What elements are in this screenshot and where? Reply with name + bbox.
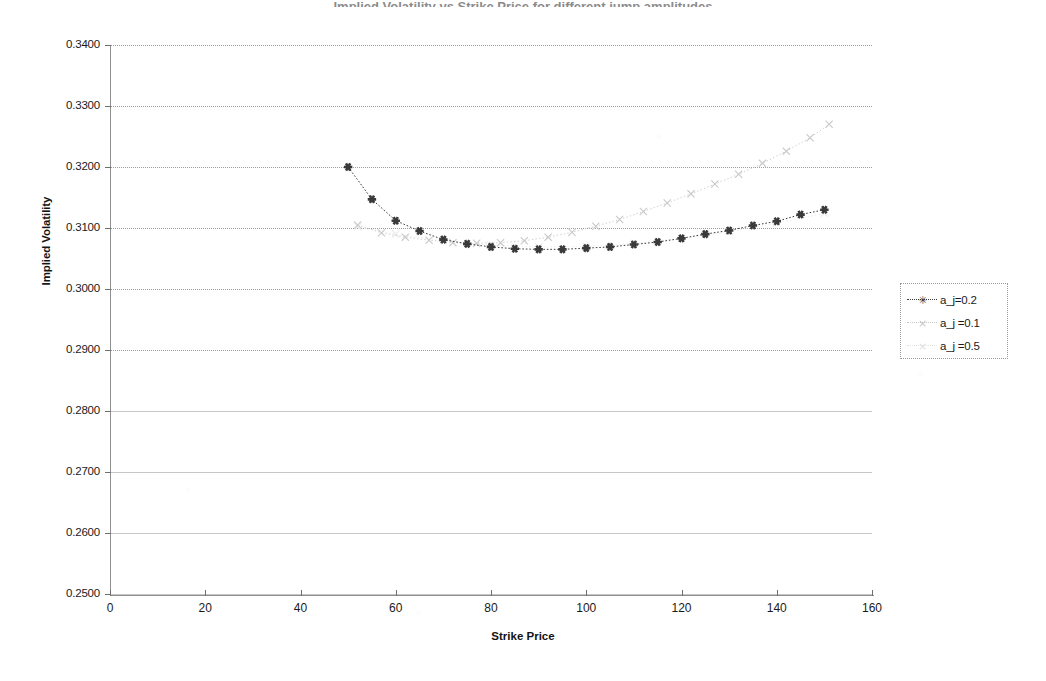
series-line — [348, 167, 824, 249]
cross-marker — [687, 190, 694, 197]
y-tick-label-wrap: 0.3200 — [40, 160, 100, 174]
y-tick-label-wrap: 0.2800 — [40, 404, 100, 418]
x-tick-label: 60 — [376, 601, 416, 615]
cross-marker — [783, 148, 790, 155]
asterisk-marker — [653, 238, 661, 245]
y-tick-label: 0.3400 — [44, 38, 100, 50]
asterisk-marker — [677, 235, 685, 242]
y-tick-label: 0.3300 — [44, 99, 100, 111]
legend-label: a_j =0.1 — [940, 317, 980, 329]
y-tick-label-wrap: 0.2500 — [40, 587, 100, 601]
cross-marker — [806, 134, 813, 141]
legend-item-1[interactable]: ×a_j =0.1 — [903, 311, 1005, 334]
asterisk-marker — [534, 246, 542, 253]
chart-title: Implied Volatility vs Strike Price for d… — [0, 0, 1046, 7]
x-tick-label: 40 — [281, 601, 321, 615]
x-axis-title: Strike Price — [0, 630, 1046, 642]
y-tick-label-wrap: 0.2700 — [40, 465, 100, 479]
asterisk-marker — [582, 244, 590, 251]
y-tick-label-wrap: 0.3000 — [40, 282, 100, 296]
asterisk-marker — [606, 243, 614, 250]
asterisk-marker — [511, 245, 519, 252]
cross-marker — [711, 180, 718, 187]
cross-marker — [568, 229, 575, 236]
cross-marker: × — [907, 317, 937, 329]
series-a-j-0-5 — [354, 210, 828, 251]
legend-item-0[interactable]: ✳a_j=0.2 — [903, 288, 1005, 311]
cross-marker — [735, 171, 742, 178]
cross-marker — [592, 223, 599, 230]
cross-marker — [640, 208, 647, 215]
chart-legend: ✳a_j=0.2×a_j =0.1×a_j =0.5 — [900, 283, 1008, 359]
y-tick-label-wrap: 0.3400 — [40, 38, 100, 52]
asterisk-marker — [773, 218, 781, 225]
legend-item-2[interactable]: ×a_j =0.5 — [903, 334, 1005, 357]
x-tick-label: 0 — [90, 601, 130, 615]
asterisk-marker-glyph: ✳ — [918, 295, 927, 306]
asterisk-marker — [463, 240, 471, 247]
x-tick-label: 80 — [471, 601, 511, 615]
y-tick-label: 0.3000 — [44, 282, 100, 294]
legend-label: a_j=0.2 — [940, 294, 977, 306]
x-tick-mark — [872, 590, 873, 596]
asterisk-marker — [487, 243, 495, 250]
cross-marker — [378, 229, 385, 236]
asterisk-marker: ✳ — [907, 294, 937, 306]
cross-marker: × — [907, 340, 937, 352]
legend-label: a_j =0.5 — [940, 340, 980, 352]
asterisk-marker — [558, 246, 566, 253]
asterisk-marker — [439, 236, 447, 243]
y-tick-label: 0.2700 — [44, 465, 100, 477]
asterisk-marker — [725, 227, 733, 234]
y-tick-label: 0.2500 — [44, 587, 100, 599]
cross-marker — [545, 234, 552, 241]
cross-marker — [664, 199, 671, 206]
y-tick-label: 0.2900 — [44, 343, 100, 355]
x-tick-label: 140 — [757, 601, 797, 615]
y-tick-label-wrap: 0.3300 — [40, 99, 100, 113]
cross-marker-glyph: × — [918, 341, 927, 352]
asterisk-marker — [392, 217, 400, 224]
cross-marker-glyph: × — [918, 318, 927, 329]
y-tick-label: 0.3200 — [44, 160, 100, 172]
asterisk-marker — [368, 196, 376, 203]
cross-marker — [759, 160, 766, 167]
asterisk-marker — [630, 241, 638, 248]
y-axis-title: Implied Volatility — [40, 161, 52, 321]
cross-marker — [392, 231, 399, 238]
series-a-j-0-1 — [354, 121, 833, 247]
y-tick-label: 0.2800 — [44, 404, 100, 416]
plot-area — [110, 45, 872, 594]
asterisk-marker — [344, 163, 352, 170]
asterisk-marker — [796, 211, 804, 218]
asterisk-marker — [749, 222, 757, 229]
x-tick-label: 120 — [662, 601, 702, 615]
cross-marker — [616, 216, 623, 223]
series-a-j-0-2 — [344, 163, 829, 253]
cross-marker — [826, 121, 833, 128]
y-tick-label-wrap: 0.2600 — [40, 526, 100, 540]
asterisk-marker — [820, 206, 828, 213]
asterisk-marker — [415, 227, 423, 234]
series-canvas — [110, 45, 872, 594]
y-tick-label: 0.3100 — [44, 221, 100, 233]
y-tick-label: 0.2600 — [44, 526, 100, 538]
asterisk-marker — [701, 230, 709, 237]
series-line — [358, 124, 829, 243]
y-tick-label-wrap: 0.2900 — [40, 343, 100, 357]
x-tick-label: 160 — [852, 601, 892, 615]
x-tick-label: 20 — [185, 601, 225, 615]
x-tick-label: 100 — [566, 601, 606, 615]
y-tick-label-wrap: 0.3100 — [40, 221, 100, 235]
